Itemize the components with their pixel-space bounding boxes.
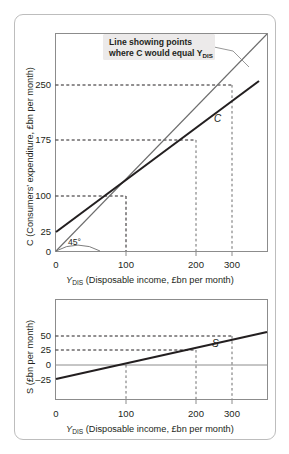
- xtick-0: 0: [53, 408, 58, 419]
- economics-figure: 250 175 100 25 0 C (Consumers’ expenditu…: [0, 0, 289, 454]
- xtick-100: 100: [118, 408, 134, 419]
- x-title-sub: DIS: [72, 279, 84, 286]
- ytick-neg25: –25: [35, 374, 51, 385]
- savings-x-axis: 0 100 200 300: [53, 408, 240, 419]
- consumption-curve-label: C: [214, 113, 222, 124]
- ytick-0: 0: [46, 359, 51, 370]
- x-title-rest: (Disposable income, £bn per month): [83, 275, 234, 285]
- xtick-300: 300: [224, 259, 240, 270]
- x-title-rest: (Disposable income, £bn per month): [83, 424, 234, 434]
- savings-y-axis: 50 25 0 –25: [35, 330, 51, 385]
- ytick-175: 175: [35, 134, 51, 145]
- consumption-x-axis-title: YDIS (Disposable income, £bn per month): [66, 275, 234, 286]
- annotation-line-2: where C would equal YDIS: [108, 48, 213, 59]
- savings-chart: S 50 25 0 –25 S (£bn per month) 0 100 20…: [0, 290, 289, 454]
- xtick-200: 200: [188, 259, 204, 270]
- xtick-300: 300: [224, 408, 240, 419]
- ytick-100: 100: [35, 190, 51, 201]
- x-title-sub: DIS: [72, 428, 84, 435]
- savings-curve-label: S: [212, 338, 219, 349]
- ytick-250: 250: [35, 79, 51, 90]
- savings-plot-frame: [56, 300, 268, 400]
- annotation-line-2-sub: DIS: [202, 52, 212, 59]
- xtick-100: 100: [118, 259, 134, 270]
- annotation-line-1: Line showing points: [109, 37, 192, 47]
- savings-y-axis-title: S (£bn per month): [25, 320, 35, 394]
- ytick-0: 0: [46, 246, 51, 257]
- savings-x-axis-title: YDIS (Disposable income, £bn per month): [66, 424, 234, 435]
- annotation-line-2-text: where C would equal Y: [108, 48, 203, 58]
- consumption-y-axis: 250 175 100 25 0: [35, 79, 51, 257]
- xtick-200: 200: [188, 408, 204, 419]
- consumption-x-axis: 0 100 200 300: [53, 259, 240, 270]
- consumption-chart: 250 175 100 25 0 C (Consumers’ expenditu…: [0, 0, 289, 290]
- xtick-0: 0: [53, 259, 58, 270]
- ytick-25: 25: [40, 344, 51, 355]
- ytick-50: 50: [40, 330, 51, 341]
- ytick-25: 25: [40, 226, 51, 237]
- consumption-y-axis-title: C (Consumers’ expenditure, £bn per month…: [25, 67, 35, 246]
- angle-label: 45°: [68, 237, 81, 247]
